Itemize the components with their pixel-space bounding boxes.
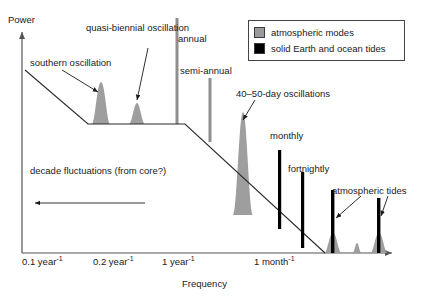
legend-item-atmospheric-modes: atmospheric modes	[254, 25, 399, 40]
arrow-40-50-day	[243, 100, 255, 120]
x-tick-label-1: 0.2 year-1	[93, 256, 134, 267]
legend-item-solid-earth-ocean-tides: solid Earth and ocean tides	[254, 41, 399, 56]
x-tick-text-1: 0.2 year	[93, 256, 127, 267]
annotation-fortnightly: fortnightly	[288, 163, 329, 174]
x-tick-label-0: 0.1 year-1	[22, 256, 63, 267]
power-spectrum-figure: Power Frequency 0.1 year-1 0.2 year-1 1 …	[0, 0, 422, 299]
x-tick-text-2: 1 year	[162, 256, 188, 267]
legend-label-solid-earth-ocean-tides: solid Earth and ocean tides	[271, 43, 386, 54]
x-tick-text-3: 1 month	[254, 256, 288, 267]
x-tick-exponent-3: -1	[288, 255, 294, 262]
x-tick-exponent-1: -1	[127, 255, 133, 262]
legend: atmospheric modes solid Earth and ocean …	[248, 20, 405, 61]
legend-label-atmospheric-modes: atmospheric modes	[271, 27, 354, 38]
arrow-atmospheric-tides-right	[381, 196, 388, 216]
annotation-semi-annual: semi-annual	[180, 65, 232, 76]
x-tick-label-3: 1 month-1	[254, 256, 295, 267]
arrow-atmospheric-tides-left	[336, 196, 361, 218]
annotation-southern-oscillation: southern oscillation	[30, 57, 111, 68]
y-axis-title: Power	[8, 14, 35, 25]
annotation-annual: annual	[178, 33, 207, 44]
x-tick-label-2: 1 year-1	[162, 256, 195, 267]
arrow-quasi-biennial	[137, 48, 148, 100]
legend-swatch-atmospheric-modes	[254, 27, 265, 38]
legend-swatch-solid-earth-ocean-tides	[254, 43, 265, 54]
x-tick-text-0: 0.1 year	[22, 256, 56, 267]
annotation-decade-fluctuations: decade fluctuations (from core?)	[30, 165, 140, 176]
arrow-southern-oscillation	[62, 70, 98, 92]
annotation-quasi-biennial-oscillation: quasi-biennial oscillation	[86, 22, 176, 33]
x-tick-exponent-2: -1	[188, 255, 194, 262]
x-axis-title: Frequency	[182, 278, 227, 289]
annotation-40-50-day-oscillations: 40–50-day oscillations	[236, 88, 330, 99]
annotation-atmospheric-tides: atmospheric tides	[332, 185, 406, 196]
annotation-monthly: monthly	[270, 130, 303, 141]
x-tick-exponent-0: -1	[56, 255, 62, 262]
